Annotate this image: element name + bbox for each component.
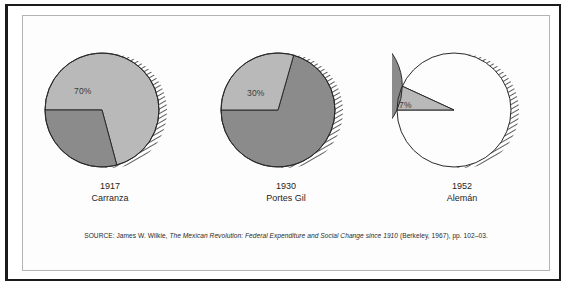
pie-figure-1917: 70% xyxy=(26,48,194,178)
pie-charts-row: 70% 1917 Carranza xyxy=(22,48,550,218)
pie-percent-label-1917: 70% xyxy=(74,86,92,96)
pie-caption-1952: 1952 Alemán xyxy=(378,180,546,204)
figure-page: 70% 1917 Carranza xyxy=(0,0,565,285)
pie-caption-1917: 1917 Carranza xyxy=(26,180,194,204)
pie-figure-1952: 7% xyxy=(378,48,546,178)
pie-chart-1917: 70% 1917 Carranza xyxy=(26,48,194,204)
pie-percent-label-1952: 7% xyxy=(399,100,412,110)
pie-svg-1952 xyxy=(392,48,532,178)
pie-year-1930: 1930 xyxy=(202,180,370,192)
pie-percent-label-1930: 30% xyxy=(247,88,265,98)
pie-person-1930: Portes Gil xyxy=(202,192,370,204)
outer-frame-left-rule xyxy=(5,4,8,281)
pie-year-1952: 1952 xyxy=(378,180,546,192)
pie-chart-1930: 30% 1930 Portes Gil xyxy=(202,48,370,204)
pie-person-1917: Carranza xyxy=(26,192,194,204)
pie-svg-1930 xyxy=(216,48,356,178)
pie-svg-1917 xyxy=(40,48,180,178)
pie-person-1952: Alemán xyxy=(378,192,546,204)
source-author: James W. Wilkie, xyxy=(117,232,168,239)
source-prefix: SOURCE: xyxy=(84,232,114,239)
source-suffix: (Berkeley, 1967), pp. 102–03. xyxy=(400,232,488,239)
pie-caption-1930: 1930 Portes Gil xyxy=(202,180,370,204)
pie-figure-1930: 30% xyxy=(202,48,370,178)
pie-year-1917: 1917 xyxy=(26,180,194,192)
pie-shadow-1952 xyxy=(405,54,519,168)
source-title: The Mexican Revolution: Federal Expendit… xyxy=(169,232,398,239)
pie-chart-1952: 7% 1952 Alemán xyxy=(378,48,546,204)
source-citation: SOURCE: James W. Wilkie, The Mexican Rev… xyxy=(22,232,550,239)
